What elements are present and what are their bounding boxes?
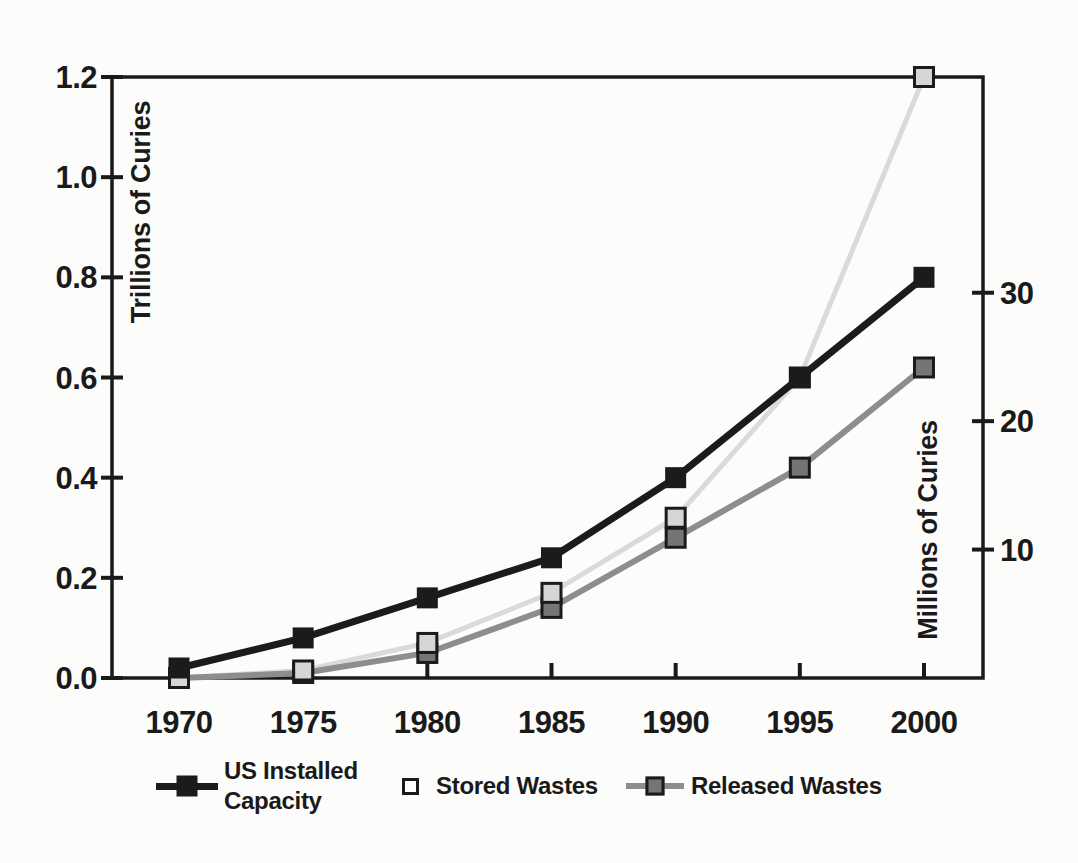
left-axis-tick-label: 0.2	[55, 561, 97, 596]
x-axis-tick-label: 2000	[891, 705, 958, 740]
us-installed-capacity-legend-marker-icon	[156, 783, 218, 790]
stored-wastes-marker	[294, 661, 313, 680]
legend-item-released-wastes: Released Wastes	[626, 743, 882, 829]
left-axis-tick-label: 1.2	[55, 60, 97, 95]
x-axis-tick-label: 1975	[270, 705, 337, 740]
released-wastes-marker	[914, 358, 933, 377]
x-axis-tick-label: 1985	[518, 705, 585, 740]
legend-label-released-wastes: Released Wastes	[691, 771, 882, 801]
legend-item-us-installed-capacity: US Installed Capacity	[156, 743, 382, 829]
x-axis-tick-label: 1970	[146, 705, 213, 740]
released-wastes-legend-marker-icon	[626, 783, 684, 789]
us-installed-capacity-marker	[913, 267, 934, 288]
black-square-icon	[177, 776, 198, 797]
legend-item-stored-wastes: Stored Wastes	[402, 743, 598, 829]
stored-wastes-marker	[666, 508, 685, 527]
released-wastes-marker	[666, 528, 685, 547]
legend-label-us-installed-capacity: US Installed Capacity	[224, 756, 382, 817]
stored-wastes-marker	[914, 68, 933, 87]
right-axis-tick-label: 20	[1000, 404, 1033, 439]
right-axis-tick-label: 30	[1000, 276, 1033, 311]
x-axis-tick-label: 1990	[642, 705, 709, 740]
us-installed-capacity-marker	[169, 657, 190, 678]
x-axis-tick-label: 1995	[766, 705, 833, 740]
right-axis-title: Millions of Curies	[913, 420, 943, 640]
released-wastes-line	[179, 367, 924, 678]
right-axis-tick-label: 10	[1000, 533, 1033, 568]
chart-legend: US Installed Capacity Stored Wastes Rele…	[0, 743, 1078, 829]
released-wastes-marker	[790, 458, 809, 477]
left-axis-tick-label: 1.0	[55, 160, 97, 195]
us-installed-capacity-marker	[665, 467, 686, 488]
chart-canvas: 0.00.20.40.60.81.01.21020301970197519801…	[0, 0, 1078, 863]
x-axis-tick-label: 1980	[394, 705, 461, 740]
left-axis-tick-label: 0.8	[55, 260, 97, 295]
left-axis-title: Trillions of Curies	[126, 101, 156, 323]
stored-wastes-marker	[418, 633, 437, 652]
legend-label-stored-wastes: Stored Wastes	[436, 771, 598, 801]
left-axis-tick-label: 0.6	[55, 361, 97, 396]
dual-axis-line-chart: 0.00.20.40.60.81.01.21020301970197519801…	[0, 0, 1078, 863]
us-installed-capacity-marker	[417, 587, 438, 608]
open-square-icon	[402, 778, 419, 795]
stored-wastes-marker	[542, 583, 561, 602]
us-installed-capacity-marker	[789, 367, 810, 388]
us-installed-capacity-marker	[541, 547, 562, 568]
us-installed-capacity-marker	[293, 627, 314, 648]
left-axis-tick-label: 0.0	[55, 661, 97, 696]
gray-square-icon	[646, 777, 665, 796]
left-axis-tick-label: 0.4	[55, 461, 98, 496]
